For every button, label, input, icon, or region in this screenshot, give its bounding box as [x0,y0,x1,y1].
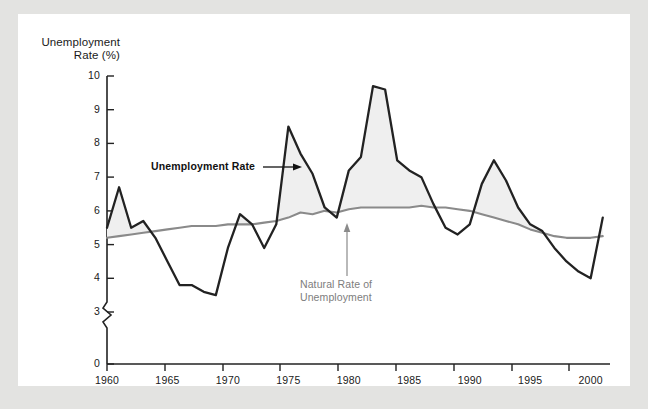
chart-svg [18,14,630,386]
x-tick-label: 1985 [387,374,431,386]
figure-panel: Unemployment Rate (%) [18,14,630,386]
natural-rate-arrow-head [344,223,351,232]
y-tick-label: 5 [70,238,100,250]
y-tick-label: 3 [70,305,100,317]
y-tick-label: 7 [70,170,100,182]
y-tick-label: 0 [70,357,100,369]
y-tick-label: 10 [70,69,100,81]
natural-rate-annotation: Natural Rate of Unemployment [300,278,420,304]
axes [103,76,610,371]
unemployment-rate-annotation: Unemployment Rate [151,160,255,172]
x-tick-label: 1965 [145,374,189,386]
y-tick-label: 4 [70,271,100,283]
y-tick-label: 8 [70,136,100,148]
x-tick-marks [107,364,569,371]
x-tick-label: 1970 [206,374,250,386]
chart-series-group [107,86,603,295]
x-tick-label: 2000 [569,374,613,386]
y-tick-label: 6 [70,204,100,216]
x-tick-label: 1990 [448,374,492,386]
x-tick-label: 1960 [85,374,129,386]
x-tick-label: 1975 [266,374,310,386]
x-tick-label: 1995 [508,374,552,386]
x-tick-label: 1980 [327,374,371,386]
y-tick-label: 9 [70,103,100,115]
